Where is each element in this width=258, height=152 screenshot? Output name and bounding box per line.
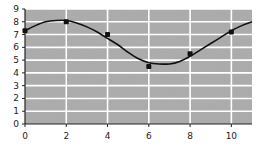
x-tick-label: 2	[63, 131, 69, 141]
data-point	[23, 28, 28, 33]
y-tick-label: 3	[13, 81, 19, 91]
y-tick-label: 9	[13, 4, 19, 14]
chart: 01234567890246810	[0, 0, 258, 152]
y-tick-label: 8	[13, 17, 19, 27]
y-tick-label: 2	[13, 93, 19, 103]
x-tick-label: 6	[146, 131, 152, 141]
y-tick-label: 1	[13, 106, 19, 116]
x-tick-label: 10	[226, 131, 238, 141]
data-point	[105, 32, 110, 37]
y-tick-label: 4	[13, 68, 19, 78]
y-tick-label: 0	[13, 119, 19, 129]
y-tick-label: 5	[13, 55, 19, 65]
data-point	[146, 64, 151, 69]
plot-area	[25, 9, 252, 124]
data-point	[229, 30, 234, 35]
y-tick-label: 7	[13, 30, 19, 40]
x-tick-label: 0	[22, 131, 28, 141]
x-tick-label: 8	[187, 131, 193, 141]
data-point	[64, 19, 69, 24]
x-tick-label: 4	[105, 131, 111, 141]
y-tick-label: 6	[13, 42, 19, 52]
data-point	[188, 51, 193, 56]
plot-texture	[25, 9, 252, 124]
